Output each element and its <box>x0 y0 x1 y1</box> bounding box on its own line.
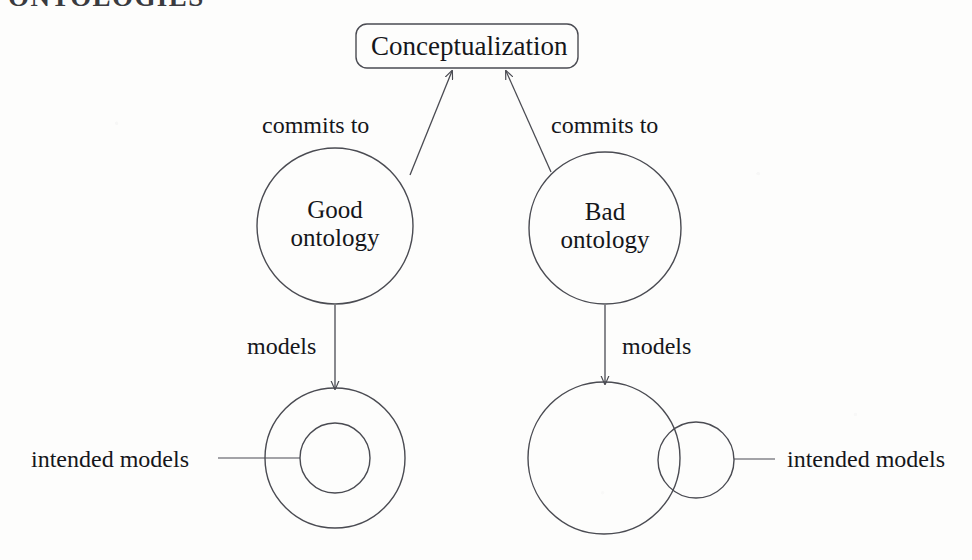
edge-label-bad-models: models <box>622 334 691 358</box>
edge-good-commits-to <box>410 71 452 175</box>
diagram-page: ONTOLOGIES Conceptualization commits to … <box>0 0 972 560</box>
good-ontology-label-line1: Good <box>285 196 385 224</box>
edge-label-bad-commits-to: commits to <box>551 113 658 137</box>
edge-bad-commits-to <box>506 71 551 172</box>
diagram-canvas <box>0 0 972 560</box>
good-ontology-label-line2: ontology <box>285 224 385 252</box>
good-models-inner-circle <box>300 423 370 493</box>
good-models-callout-label: intended models <box>31 447 189 471</box>
bad-models-intended-circle <box>658 422 734 498</box>
edge-label-good-models: models <box>247 334 316 358</box>
edge-label-good-commits-to: commits to <box>262 113 369 137</box>
bad-models-large-circle <box>528 382 680 534</box>
bad-models-callout-label: intended models <box>787 447 945 471</box>
bad-ontology-label-line2: ontology <box>555 226 655 254</box>
bad-ontology-label: Bad ontology <box>555 198 655 254</box>
bad-ontology-label-line1: Bad <box>555 198 655 226</box>
good-ontology-label: Good ontology <box>285 196 385 252</box>
conceptualization-label: Conceptualization <box>371 33 567 60</box>
